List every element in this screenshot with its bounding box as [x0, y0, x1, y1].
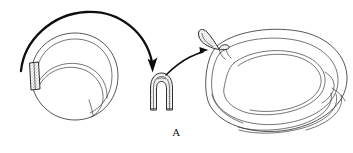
recipient-ring-secondary-rim — [212, 38, 338, 125]
folded-graft-shading — [151, 73, 173, 110]
recipient-ring-lower-band-1 — [238, 93, 331, 130]
insertion-transfer-arrow — [166, 47, 208, 75]
right-recipient-ring — [198, 29, 347, 133]
inserted-graft-loop-stem-2 — [226, 50, 231, 59]
recipient-ring-lumen-inner — [238, 54, 321, 111]
harvest-arrow-shaft — [21, 12, 152, 71]
donor-ring-lumen-lower — [38, 63, 107, 98]
harvest-transfer-arrow — [21, 12, 157, 73]
insertion-arrow-head — [197, 47, 209, 55]
folded-graft — [151, 73, 173, 110]
donor-graft-segment — [30, 62, 41, 90]
recipient-ring-notch-crease — [332, 88, 345, 101]
inserted-graft-loop-shading — [198, 29, 229, 49]
figure-canvas: A — [0, 0, 353, 153]
left-donor-ring — [30, 33, 119, 120]
insertion-arrow-shaft — [166, 52, 203, 75]
panel-label: A — [0, 126, 353, 139]
inserted-graft-loop-stem — [219, 49, 225, 59]
inserted-graft-loop — [198, 29, 231, 59]
donor-ring-outer-contour — [31, 33, 118, 120]
recipient-ring-left-lower-wall — [212, 94, 243, 123]
donor-ring-inner-contour — [37, 39, 112, 113]
recipient-ring-lumen-contour — [224, 51, 325, 115]
donor-ring-lumen-upper — [40, 67, 103, 117]
